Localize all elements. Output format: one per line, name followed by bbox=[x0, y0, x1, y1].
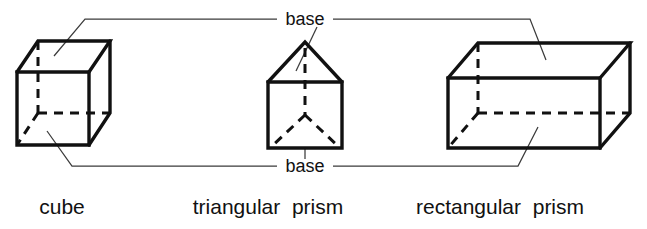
leader-bottom-cube bbox=[47, 131, 277, 166]
rectangular-prism-shape bbox=[448, 43, 630, 148]
diagram-canvas: base base cube triangular prism rectangu… bbox=[0, 0, 647, 229]
top-base-label: base bbox=[285, 9, 324, 29]
rectangular-prism-hidden-back-left-base-edge bbox=[448, 113, 478, 148]
triangular-prism-shape bbox=[268, 42, 342, 148]
cube-top-face bbox=[17, 41, 110, 72]
bottom-base-label: base bbox=[285, 156, 324, 176]
cube-hidden-back-left-base-edge bbox=[17, 113, 38, 145]
cube-front-face bbox=[17, 72, 89, 145]
cube-shape bbox=[17, 41, 110, 145]
triangular-prism-hidden-back-left-edge bbox=[270, 115, 305, 148]
prisms-diagram: base base cube triangular prism rectangu… bbox=[0, 0, 647, 229]
caption-rectangular-prism: rectangular prism bbox=[416, 195, 584, 218]
rectangular-prism-top-face bbox=[448, 43, 630, 78]
leader-top-rectangular-prism bbox=[333, 19, 546, 60]
leader-top-cube bbox=[54, 19, 277, 56]
caption-cube: cube bbox=[39, 195, 85, 218]
caption-triangular-prism: triangular prism bbox=[193, 195, 344, 218]
triangular-prism-hidden-back-right-edge bbox=[305, 115, 340, 148]
